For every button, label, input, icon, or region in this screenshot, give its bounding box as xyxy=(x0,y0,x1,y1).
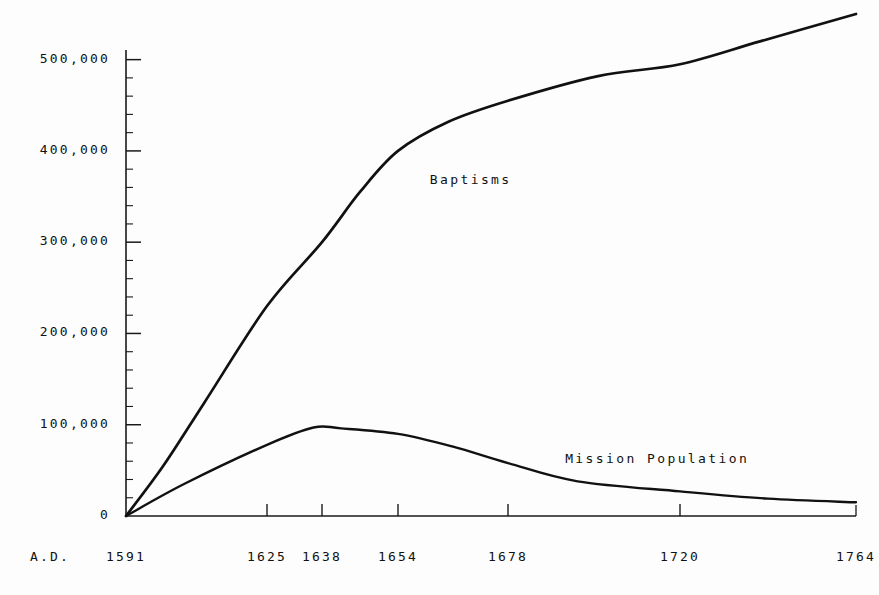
chart-tick-marks xyxy=(126,60,680,516)
x-tick-label-1764: 1764 xyxy=(820,549,879,564)
series-curve-baptisms xyxy=(126,14,856,516)
x-tick-label-1591: 1591 xyxy=(90,549,162,564)
chart-axes xyxy=(126,50,856,516)
series-label-baptisms: Baptisms xyxy=(430,172,512,187)
y-tick-label-100000: 100,000 xyxy=(40,416,110,431)
chart-series-lines xyxy=(126,14,856,516)
x-tick-label-1638: 1638 xyxy=(286,549,358,564)
series-label-mission-population: Mission Population xyxy=(565,451,749,466)
x-tick-label-1678: 1678 xyxy=(472,549,544,564)
x-tick-label-1720: 1720 xyxy=(644,549,716,564)
series-curve-mission-population xyxy=(126,426,856,516)
y-tick-label-400000: 400,000 xyxy=(40,142,110,157)
chart-plot-area xyxy=(0,0,879,595)
chart-canvas: 0100,000200,000300,000400,000500,000 159… xyxy=(0,0,879,595)
y-tick-label-300000: 300,000 xyxy=(40,233,110,248)
era-prefix-label: A.D. xyxy=(30,549,70,564)
y-tick-label-200000: 200,000 xyxy=(40,324,110,339)
y-tick-label-0: 0 xyxy=(100,507,110,522)
x-tick-label-1654: 1654 xyxy=(362,549,434,564)
y-tick-label-500000: 500,000 xyxy=(40,51,110,66)
